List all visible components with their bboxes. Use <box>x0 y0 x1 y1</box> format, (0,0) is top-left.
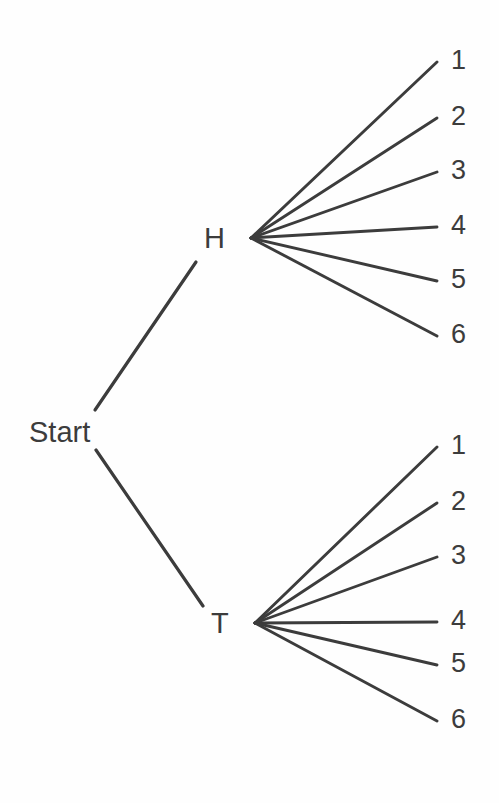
node-label-h: H <box>204 224 225 253</box>
edge-t-to-1 <box>255 447 437 623</box>
edge-t-to-5 <box>255 623 437 665</box>
edge-h-to-6 <box>251 238 437 336</box>
leaf-label-h-2: 2 <box>451 103 466 130</box>
edge-t-to-6 <box>255 623 437 721</box>
leaf-label-t-4: 4 <box>451 607 466 634</box>
edge-start-to-t <box>96 450 203 606</box>
root-branch-group <box>95 262 203 606</box>
edge-t-to-3 <box>255 557 437 623</box>
h-branch-group <box>251 62 437 336</box>
edge-h-to-5 <box>251 238 437 281</box>
leaf-label-h-1: 1 <box>451 47 466 74</box>
leaf-label-t-2: 2 <box>451 488 466 515</box>
node-label-t: T <box>211 609 229 638</box>
tree-diagram-canvas: Start H T 123456 123456 <box>0 0 499 803</box>
leaf-label-t-6: 6 <box>451 706 466 733</box>
edge-t-to-4 <box>255 622 437 623</box>
edge-start-to-h <box>95 262 196 410</box>
edge-h-to-1 <box>251 62 437 238</box>
leaf-label-h-4: 4 <box>451 212 466 239</box>
leaf-label-h-6: 6 <box>451 321 466 348</box>
t-branch-group <box>255 447 437 721</box>
leaf-label-t-5: 5 <box>451 650 466 677</box>
leaf-label-t-3: 3 <box>451 542 466 569</box>
leaf-label-h-5: 5 <box>451 266 466 293</box>
edge-t-to-2 <box>255 503 437 623</box>
edge-h-to-2 <box>251 118 437 238</box>
node-label-start: Start <box>29 418 90 447</box>
tree-edges-svg <box>0 0 499 803</box>
leaf-label-t-1: 1 <box>451 432 466 459</box>
leaf-label-h-3: 3 <box>451 157 466 184</box>
